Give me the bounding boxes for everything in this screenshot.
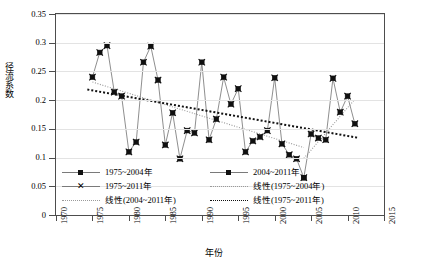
y-tick-label: 0.1 [12, 153, 46, 162]
figure-caption [0, 261, 427, 266]
legend-dotted-bold-line [210, 200, 248, 201]
x-tick-mark [348, 216, 349, 221]
legend-key-dotted-thin-line [210, 180, 248, 192]
legend-square-marker-icon [226, 170, 231, 175]
legend-row: 线性(2004~2011年)线性(1975~2011年) [62, 193, 352, 207]
y-tick-label: 0 [12, 211, 46, 220]
legend-label: 2004~2011年 [253, 168, 300, 177]
runoff-coefficient-chart: 径流系数 00.050.10.150.20.250.30.35 19701975… [0, 0, 427, 266]
y-tick-label: 0.15 [12, 124, 46, 133]
x-tick-mark [202, 216, 203, 221]
x-tick-mark [311, 216, 312, 221]
legend-row: ✕1975~2011年线性(1975~2004年) [62, 179, 352, 193]
legend-entry[interactable]: 2004~2011年 [210, 165, 300, 179]
legend-label: 1975~2004年 [105, 168, 153, 177]
legend-x-marker-icon: ✕ [76, 180, 86, 192]
legend-key-line-square-marker [210, 166, 248, 178]
gridline [56, 100, 384, 101]
legend-key-line-square-marker [62, 166, 100, 178]
x-tick-mark [165, 216, 166, 221]
legend-dotted-line [62, 200, 100, 201]
gridline [56, 43, 384, 44]
gridline [56, 71, 384, 72]
gridline [56, 14, 384, 15]
legend-label: 线性(1975~2011年) [253, 196, 324, 205]
legend-entry[interactable]: 线性(2004~2011年) [62, 193, 176, 207]
trendline-线性(1975~2011年) [87, 90, 357, 138]
x-tick-mark [275, 216, 276, 221]
legend-label: 线性(2004~2011年) [105, 196, 176, 205]
y-tick-label: 0.2 [12, 96, 46, 105]
legend-square-marker-icon [78, 170, 83, 175]
legend-key-dotted-thin-line [62, 194, 100, 206]
y-tick-label: 0.3 [12, 38, 46, 47]
y-tick-label: 0.25 [12, 67, 46, 76]
y-tick-label: 0.05 [12, 182, 46, 191]
x-tick-mark [238, 216, 239, 221]
chart-legend: 1975~2004年2004~2011年✕1975~2011年线性(1975~2… [62, 165, 352, 213]
legend-key-dotted-bold-line [210, 194, 248, 206]
legend-dotted-line [210, 186, 248, 187]
legend-entry[interactable]: 线性(1975~2011年) [210, 193, 324, 207]
x-tick-label: 2010 [352, 207, 361, 224]
legend-row: 1975~2004年2004~2011年 [62, 165, 352, 179]
legend-entry[interactable]: ✕1975~2011年 [62, 179, 152, 193]
gridline [56, 158, 384, 159]
x-tick-mark [56, 216, 57, 221]
legend-entry[interactable]: 线性(1975~2004年) [210, 179, 324, 193]
x-tick-mark [92, 216, 93, 221]
y-tick-label: 0.35 [12, 10, 46, 19]
x-tick-mark [129, 216, 130, 221]
gridline [56, 129, 384, 130]
x-tick-label: 2015 [388, 207, 397, 224]
x-axis-title: 年份 [0, 248, 427, 258]
legend-label: 线性(1975~2004年) [253, 182, 324, 191]
legend-label: 1975~2011年 [105, 182, 152, 191]
x-tick-mark [384, 216, 385, 221]
legend-entry[interactable]: 1975~2004年 [62, 165, 153, 179]
legend-key-x-marker: ✕ [62, 180, 100, 192]
